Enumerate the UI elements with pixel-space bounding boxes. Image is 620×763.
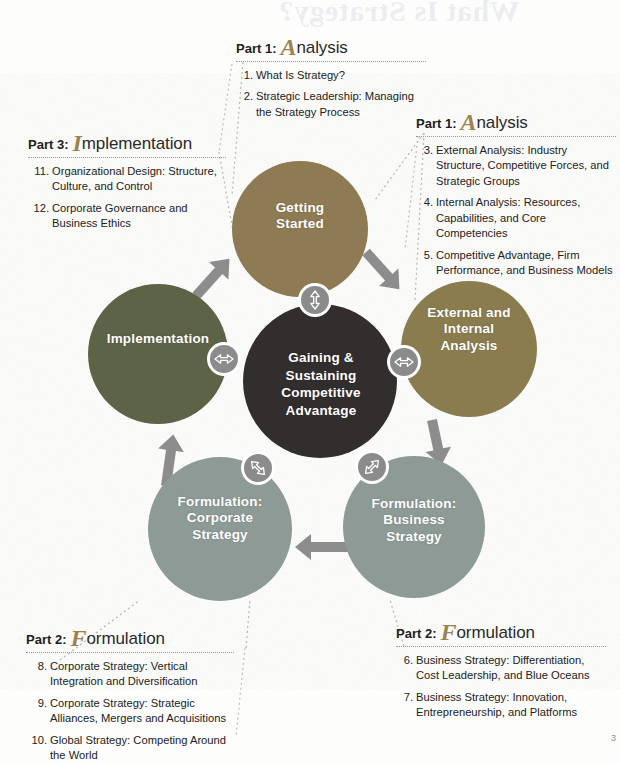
- part-heading-left: Part 3: I mplementation: [28, 129, 226, 154]
- part-prefix: Part 1:: [416, 116, 456, 131]
- item-number: 1.: [236, 68, 253, 83]
- list-item: 6.Business Strategy: Differentiation, Co…: [396, 653, 606, 684]
- part-prefix: Part 1:: [236, 41, 276, 56]
- node-implementation: [88, 284, 228, 424]
- item-text: Global Strategy: Competing Around the Wo…: [50, 734, 226, 761]
- divider: [396, 646, 606, 647]
- item-text: Business Strategy: Innovation, Entrepren…: [416, 691, 577, 718]
- divider: [416, 136, 616, 137]
- item-text: Corporate Strategy: Strategic Alliances,…: [50, 697, 226, 724]
- list-item: 2.Strategic Leadership: Managing the Str…: [236, 89, 426, 120]
- part-title: ormulation: [456, 623, 534, 643]
- part-block-left: Part 3: I mplementation 11.Organizationa…: [28, 129, 226, 238]
- chapter-list-right: 3.External Analysis: Industry Structure,…: [416, 143, 616, 279]
- part-block-bottom-left: Part 2: F ormulation 8.Corporate Strateg…: [26, 624, 234, 763]
- chapter-list-bottom-right: 6.Business Strategy: Differentiation, Co…: [396, 653, 606, 721]
- part-heading-right: Part 1: A nalysis: [416, 108, 616, 133]
- divider: [28, 157, 226, 158]
- list-item: 10.Global Strategy: Competing Around the…: [26, 733, 234, 763]
- list-item: 4.Internal Analysis: Resources, Capabili…: [416, 195, 616, 241]
- item-text: Competitive Advantage, Firm Performance,…: [436, 249, 613, 276]
- chapter-list-left: 11.Organizational Design: Structure, Cul…: [28, 164, 226, 232]
- part-block-right: Part 1: A nalysis 3.External Analysis: I…: [416, 108, 616, 285]
- part-heading-bottom-left: Part 2: F ormulation: [26, 624, 234, 649]
- part-title: nalysis: [476, 113, 527, 133]
- item-text: Corporate Strategy: Vertical Integration…: [50, 660, 197, 687]
- part-prefix: Part 2:: [26, 632, 66, 647]
- item-number: 11.: [28, 164, 49, 179]
- list-item: 1.What Is Strategy?: [236, 68, 426, 83]
- item-number: 9.: [26, 696, 47, 711]
- part-title: ormulation: [86, 629, 164, 649]
- item-number: 12.: [28, 201, 49, 216]
- part-title: mplementation: [82, 134, 192, 154]
- item-number: 5.: [416, 248, 433, 263]
- divider: [236, 61, 426, 62]
- item-number: 3.: [416, 143, 433, 158]
- item-text: Business Strategy: Differentiation, Cost…: [416, 654, 590, 681]
- chapter-list-top: 1.What Is Strategy? 2.Strategic Leadersh…: [236, 68, 426, 120]
- part-heading-top: Part 1: A nalysis: [236, 33, 426, 58]
- arrow-down-right: [356, 243, 409, 298]
- part-dropcap: A: [460, 110, 476, 134]
- list-item: 11.Organizational Design: Structure, Cul…: [28, 164, 226, 195]
- part-block-top: Part 1: A nalysis 1.What Is Strategy? 2.…: [236, 33, 426, 126]
- badge-double-arrow-horizontal-left: [207, 342, 241, 376]
- list-item: 7.Business Strategy: Innovation, Entrepr…: [396, 690, 606, 721]
- node-center-advantage: [243, 304, 397, 458]
- divider: [26, 652, 234, 653]
- list-item: 12.Corporate Governance and Business Eth…: [28, 201, 226, 232]
- part-dropcap: F: [440, 620, 456, 644]
- item-text: Internal Analysis: Resources, Capabiliti…: [436, 196, 580, 239]
- part-heading-bottom-right: Part 2: F ormulation: [396, 618, 606, 643]
- item-text: What Is Strategy?: [256, 69, 345, 81]
- node-getting-started: [232, 161, 368, 297]
- node-external-internal-analysis: [401, 281, 537, 417]
- item-number: 6.: [396, 653, 413, 668]
- list-item: 3.External Analysis: Industry Structure,…: [416, 143, 616, 189]
- chapter-list-bottom-left: 8.Corporate Strategy: Vertical Integrati…: [26, 659, 234, 763]
- badge-double-arrow-horizontal-right: [387, 345, 421, 379]
- item-text: External Analysis: Industry Structure, C…: [436, 144, 609, 187]
- item-text: Corporate Governance and Business Ethics: [52, 202, 188, 229]
- list-item: 5.Competitive Advantage, Firm Performanc…: [416, 248, 616, 279]
- item-number: 8.: [26, 659, 47, 674]
- item-text: Strategic Leadership: Managing the Strat…: [256, 90, 414, 117]
- item-text: Organizational Design: Structure, Cultur…: [52, 165, 217, 192]
- item-number: 4.: [416, 195, 433, 210]
- page-number: 3: [611, 733, 616, 743]
- item-number: 2.: [236, 89, 253, 104]
- badge-double-arrow-vertical: [298, 283, 332, 317]
- part-dropcap: A: [280, 35, 296, 59]
- part-prefix: Part 3:: [28, 137, 68, 152]
- part-dropcap: I: [72, 131, 81, 155]
- part-dropcap: F: [70, 626, 86, 650]
- item-number: 10.: [26, 733, 47, 748]
- part-title: nalysis: [296, 38, 347, 58]
- list-item: 9.Corporate Strategy: Strategic Alliance…: [26, 696, 234, 727]
- part-prefix: Part 2:: [396, 626, 436, 641]
- item-number: 7.: [396, 690, 413, 705]
- list-item: 8.Corporate Strategy: Vertical Integrati…: [26, 659, 234, 690]
- part-block-bottom-right: Part 2: F ormulation 6.Business Strategy…: [396, 618, 606, 727]
